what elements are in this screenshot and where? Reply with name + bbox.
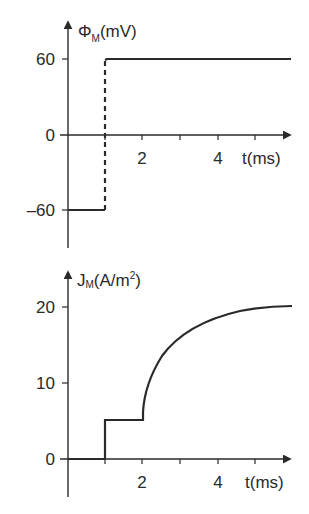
xtick-label: 4 [213,149,222,168]
current-density-curve [68,306,292,459]
ytick-label: 10 [36,374,55,393]
ytick-label: –60 [27,201,55,220]
ytick-label: 0 [46,450,55,469]
ytick-label: 60 [36,50,55,69]
ytick-label: 20 [36,298,55,317]
xtick-label: 4 [213,473,222,492]
y-axis-label: ΦM(mV) [78,22,137,44]
potential-after-line [105,59,291,60]
membrane-charts: 60 0 –60 2 4 t(ms) ΦM(mV) 20 10 0 2 4 t(… [0,0,309,514]
xtick-label: 2 [137,473,146,492]
y-axis-label: JM(A/m2) [77,270,141,290]
ytick-label: 0 [46,126,55,145]
x-axis-label: t(ms) [245,473,284,492]
xtick-label: 2 [137,149,146,168]
potential-chart: 60 0 –60 2 4 t(ms) ΦM(mV) [27,22,291,248]
x-axis-label: t(ms) [242,149,281,168]
current-chart: 20 10 0 2 4 t(ms) JM(A/m2) [36,270,292,497]
